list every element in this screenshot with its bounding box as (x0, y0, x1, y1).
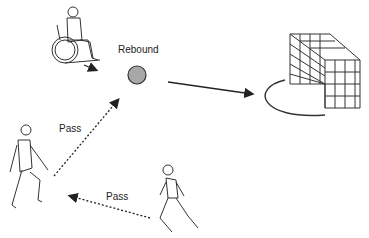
diagram-canvas (0, 0, 369, 238)
goal-net (265, 34, 360, 116)
running-player-figure (160, 165, 198, 232)
pass-upper-label: Pass (59, 123, 81, 134)
ball (128, 66, 146, 84)
pass-lower-label: Pass (106, 191, 128, 202)
wheelchair-user-figure (52, 7, 100, 63)
standing-player-figure (10, 125, 48, 208)
rebound-label: Rebound (118, 44, 159, 55)
